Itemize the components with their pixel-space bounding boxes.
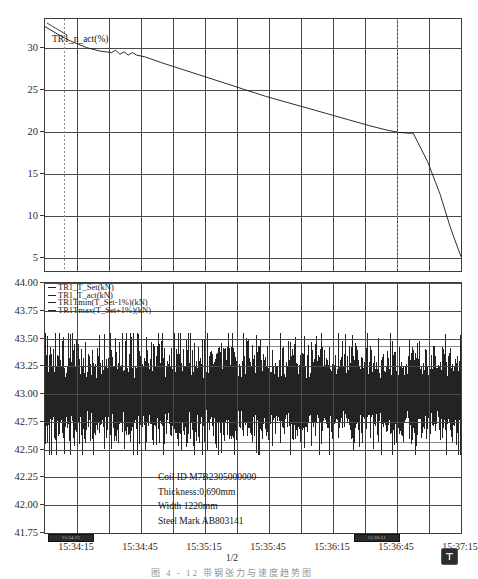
y-axis-tick-mark xyxy=(40,421,44,422)
y-axis-tick-mark xyxy=(40,449,44,450)
y-axis-tick-mark xyxy=(40,215,44,216)
gridline-vertical xyxy=(429,283,430,533)
y-axis-tick-mark xyxy=(40,310,44,311)
y-axis-tick-label: 42.00 xyxy=(14,499,38,510)
y-axis-tick-label: 43.75 xyxy=(14,304,38,315)
width-text: Width 1220mm xyxy=(158,499,256,514)
y-axis-tick-label: 25 xyxy=(28,84,39,95)
gridline-vertical xyxy=(109,283,110,533)
x-axis-tick-label: 15:34:15 xyxy=(58,541,94,552)
y-axis-tick-mark xyxy=(40,476,44,477)
y-axis-tick-label: 30 xyxy=(28,42,39,53)
axis-time-marker-chip[interactable]: 15:34:13 xyxy=(48,534,94,542)
tension-reference-line xyxy=(45,346,461,347)
legend-key-icon xyxy=(48,310,56,311)
y-axis-tick-label: 44.00 xyxy=(14,277,38,288)
y-axis-tick-mark xyxy=(40,131,44,132)
y-axis-tick-label: 42.25 xyxy=(14,471,38,482)
y-axis-tick-label: 15 xyxy=(28,168,39,179)
legend-item: TR1Tmax(T_Set+1%)(kN) xyxy=(48,307,151,315)
cursor-icon xyxy=(445,552,454,561)
gridline-horizontal xyxy=(45,339,461,340)
chart-tool-button[interactable] xyxy=(441,548,458,565)
y-axis-tick-label: 41.75 xyxy=(14,527,38,538)
y-axis-tick-mark xyxy=(40,47,44,48)
y-axis-tick-mark xyxy=(40,393,44,394)
x-axis-tick-label: 15:36:45 xyxy=(378,541,414,552)
y-axis-tick-label: 42.50 xyxy=(14,443,38,454)
tension-legend: TR1_T_Set(kN) TR1_T_act(kN) TR1Tmin(T_Se… xyxy=(48,284,151,314)
gridline-horizontal xyxy=(45,394,461,395)
x-axis-tick-label: 15:36:15 xyxy=(314,541,350,552)
gridline-vertical xyxy=(301,283,302,533)
gridline-vertical xyxy=(397,283,398,533)
y-axis-tick-label: 20 xyxy=(28,126,39,137)
legend-label-speed: TR1_n_act(%) xyxy=(52,34,108,44)
y-axis-tick-label: 5 xyxy=(33,252,38,263)
legend-label-t-max: TR1Tmax(T_Set+1%)(kN) xyxy=(58,307,151,315)
y-axis-tick-label: 43.00 xyxy=(14,388,38,399)
y-axis-tick-label: 43.25 xyxy=(14,360,38,371)
y-axis-tick-label: 42.75 xyxy=(14,415,38,426)
thickness-text: Thickness:0,690mm xyxy=(158,485,256,500)
y-axis-tick-mark xyxy=(40,173,44,174)
speed-legend: TR1_n_act(%) xyxy=(52,34,108,44)
tension-trend-chart: TR1_T_Set(kN) TR1_T_act(kN) TR1Tmin(T_Se… xyxy=(0,282,464,538)
axis-time-marker-chip[interactable]: 15:36:51 xyxy=(354,534,400,542)
y-axis-tick-mark xyxy=(40,504,44,505)
gridline-vertical xyxy=(365,283,366,533)
gridline-horizontal xyxy=(45,422,461,423)
x-axis-tick-label: 15:35:45 xyxy=(250,541,286,552)
y-axis-tick-label: 10 xyxy=(28,210,39,221)
steel-mark-text: Steel Mark AB803141 xyxy=(158,514,256,529)
coil-info-block: Coil ID M7B2305000000 Thickness:0,690mm … xyxy=(158,470,256,528)
gridline-horizontal xyxy=(45,366,461,367)
y-axis-tick-mark xyxy=(40,338,44,339)
y-axis-tick-mark xyxy=(40,89,44,90)
page-number: 1/2 xyxy=(0,553,464,563)
tension-reference-line xyxy=(45,442,461,443)
speed-plot-area[interactable] xyxy=(44,18,462,272)
coil-id-text: Coil ID M7B2305000000 xyxy=(158,470,256,485)
gridline-vertical xyxy=(333,283,334,533)
legend-key-icon xyxy=(48,287,56,288)
legend-key-icon xyxy=(48,302,56,303)
x-axis-tick-label: 15:35:15 xyxy=(186,541,222,552)
y-axis-tick-mark xyxy=(40,532,44,533)
gridline-horizontal xyxy=(45,450,461,451)
gridline-vertical xyxy=(141,283,142,533)
y-axis-tick-mark xyxy=(40,365,44,366)
figure-caption: 图 4 - 12 带钢张力与速度趋势图 xyxy=(0,566,464,579)
y-axis-tick-mark xyxy=(40,257,44,258)
gridline-vertical xyxy=(77,283,78,533)
legend-key-icon xyxy=(48,295,56,296)
gridline-vertical xyxy=(269,283,270,533)
x-axis-tick-label: 15:34:45 xyxy=(122,541,158,552)
speed-trend-chart: TR1_n_act(%) xyxy=(0,8,464,276)
y-axis-tick-label: 43.50 xyxy=(14,332,38,343)
speed-curve xyxy=(45,19,461,271)
y-axis-tick-mark xyxy=(40,282,44,283)
